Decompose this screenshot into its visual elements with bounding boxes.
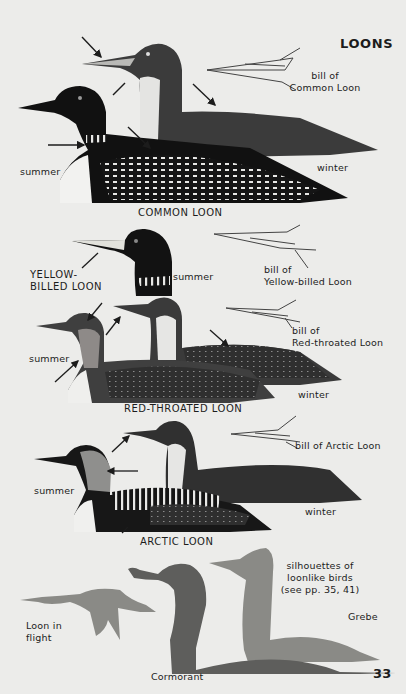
page-number: 33 xyxy=(373,668,392,680)
cormorant-label: Cormorant xyxy=(151,671,204,683)
arrow-winter-back xyxy=(193,84,215,105)
arrow-red-bill xyxy=(106,317,120,335)
common-loon-caption: COMMON LOON xyxy=(138,207,223,219)
arrow-head xyxy=(113,83,125,95)
silhouettes-caption: silhouettes of loonlike birds (see pp. 3… xyxy=(278,560,362,596)
red-throated-loon-bill-label-line1: bill of xyxy=(292,325,383,337)
yellow-billed-loon-bill-label-line2: Yellow-billed Loon xyxy=(264,276,352,288)
yellow-billed-loon-name: YELLOW- BILLED LOON xyxy=(30,269,102,293)
common-loon-bill-label-line1: bill of xyxy=(282,70,368,82)
red-throated-loon-bill-label: bill of Red-throated Loon xyxy=(292,325,383,349)
silhouettes-caption-line2: loonlike birds xyxy=(278,572,362,584)
arctic-loon-summer-label: summer xyxy=(34,485,74,497)
common-loon-bill-label-line2: Common Loon xyxy=(282,82,368,94)
yellow-billed-loon-bill-label: bill of Yellow-billed Loon xyxy=(264,264,352,288)
red-throated-loon-bill-diagram xyxy=(226,300,300,328)
arrow-arctic-bill xyxy=(112,436,129,452)
arctic-loon-bill-label: bill of Arctic Loon xyxy=(295,440,381,452)
grebe-label: Grebe xyxy=(348,611,378,623)
common-loon-winter-label: winter xyxy=(317,162,348,174)
yellow-billed-loon-name-line2: BILLED LOON xyxy=(30,281,102,293)
silhouettes-caption-line1: silhouettes of xyxy=(278,560,362,572)
red-throated-loon-summer-label: summer xyxy=(29,353,69,365)
arctic-loon-winter-label: winter xyxy=(305,506,336,518)
red-throated-loon-winter-label: winter xyxy=(298,389,329,401)
red-throated-loon-caption: RED-THROATED LOON xyxy=(124,403,242,415)
page-title: LOONS xyxy=(340,38,393,50)
loon-in-flight-label-line2: flight xyxy=(26,632,62,644)
common-loon-summer-label: summer xyxy=(20,166,60,178)
loon-in-flight-label: Loon in flight xyxy=(26,620,62,644)
arrow-red-back xyxy=(210,330,228,346)
common-loon-bill-label: bill of Common Loon xyxy=(282,70,368,94)
yellow-billed-loon-name-line1: YELLOW- xyxy=(30,269,102,281)
yellow-billed-loon-bill-label-line1: bill of xyxy=(264,264,352,276)
field-guide-page: LOONS bill of Common Loon summer winter … xyxy=(0,0,406,694)
red-throated-loon-bill-label-line2: Red-throated Loon xyxy=(292,337,383,349)
silhouettes-caption-line3: (see pp. 35, 41) xyxy=(278,584,362,596)
yellow-billed-loon-summer-label: summer xyxy=(173,271,213,283)
arctic-loon-bill-diagram xyxy=(231,416,300,448)
yellow-billed-loon-bill-diagram xyxy=(214,225,316,268)
loon-in-flight-label-line1: Loon in xyxy=(26,620,62,632)
arrow-yellow-bill xyxy=(82,253,98,268)
arctic-loon-caption: ARCTIC LOON xyxy=(140,536,213,548)
arrow-bill xyxy=(82,37,101,57)
